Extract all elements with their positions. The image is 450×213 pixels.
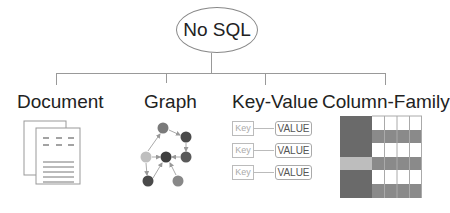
column-family-icon (0, 0, 443, 213)
